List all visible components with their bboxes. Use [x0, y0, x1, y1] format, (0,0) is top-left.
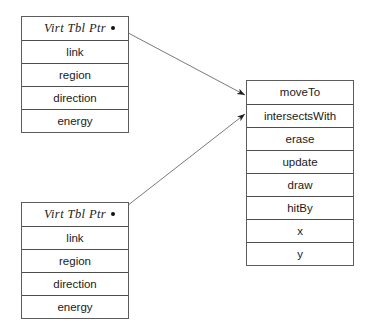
object-instance-bottom[interactable]: Virt Tbl Ptr link region direction energ… [21, 202, 129, 319]
object-bottom-field-link[interactable]: link [22, 226, 128, 249]
vtable-entry-erase[interactable]: erase [247, 127, 353, 150]
object-instance-top[interactable]: Virt Tbl Ptr link region direction energ… [21, 16, 129, 133]
object-bottom-vtbl-ptr-label: Virt Tbl Ptr [44, 207, 106, 221]
diagram-canvas: Virt Tbl Ptr link region direction energ… [0, 0, 370, 334]
vtable-entry-x[interactable]: x [247, 219, 353, 242]
object-top-field-energy[interactable]: energy [22, 109, 128, 132]
pointer-dot-icon [111, 26, 115, 30]
vtable-entry-intersectswith[interactable]: intersectsWith [247, 104, 353, 127]
object-top-field-direction[interactable]: direction [22, 86, 128, 109]
object-top-field-region[interactable]: region [22, 63, 128, 86]
object-bottom-vtbl-ptr-row[interactable]: Virt Tbl Ptr [22, 203, 128, 226]
vtable-entry-hitby[interactable]: hitBy [247, 196, 353, 219]
object-top-vtbl-ptr-row[interactable]: Virt Tbl Ptr [22, 17, 128, 40]
object-top-vtbl-ptr-label: Virt Tbl Ptr [44, 21, 106, 35]
pointer-arrow-top [117, 27, 245, 95]
vtable-entry-update[interactable]: update [247, 150, 353, 173]
object-bottom-field-direction[interactable]: direction [22, 272, 128, 295]
pointer-arrow-bottom [118, 114, 245, 213]
vtable-entry-y[interactable]: y [247, 242, 353, 265]
object-top-field-link[interactable]: link [22, 40, 128, 63]
virtual-function-table[interactable]: moveTo intersectsWith erase update draw … [246, 80, 354, 266]
vtable-entry-draw[interactable]: draw [247, 173, 353, 196]
object-bottom-field-energy[interactable]: energy [22, 295, 128, 318]
object-bottom-field-region[interactable]: region [22, 249, 128, 272]
pointer-dot-icon [111, 212, 115, 216]
vtable-entry-moveto[interactable]: moveTo [247, 81, 353, 104]
